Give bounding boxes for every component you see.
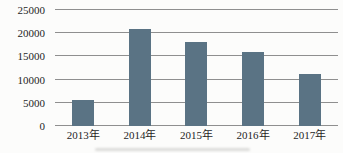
y-tick-label-0: 0 (0, 119, 45, 133)
bar-2014年 (129, 29, 151, 126)
plot-area (55, 10, 338, 126)
y-axis: 0500010000150002000025000 (0, 10, 49, 126)
bar-2015年 (185, 42, 207, 126)
bar-chart: 0500010000150002000025000 2013年2014年2015… (0, 0, 343, 153)
bar-2016年 (242, 52, 264, 126)
x-tick-label-2014年: 2014年 (112, 129, 169, 142)
y-tick-label-25000: 25000 (0, 3, 45, 17)
cutoff-caption-artifact (95, 148, 250, 151)
x-tick-label-2015年: 2015年 (168, 129, 225, 142)
x-tick-label-2016年: 2016年 (225, 129, 282, 142)
y-tick-label-10000: 10000 (0, 73, 45, 87)
bar-2013年 (72, 100, 94, 126)
x-tick-label-2017年: 2017年 (281, 129, 338, 142)
x-tick-label-2013年: 2013年 (55, 129, 112, 142)
bar-2017年 (299, 74, 321, 126)
y-tick-label-20000: 20000 (0, 26, 45, 40)
x-axis: 2013年2014年2015年2016年2017年 (55, 129, 338, 142)
y-tick-label-5000: 5000 (0, 96, 45, 110)
bar-series (55, 10, 338, 126)
y-tick-label-15000: 15000 (0, 49, 45, 63)
